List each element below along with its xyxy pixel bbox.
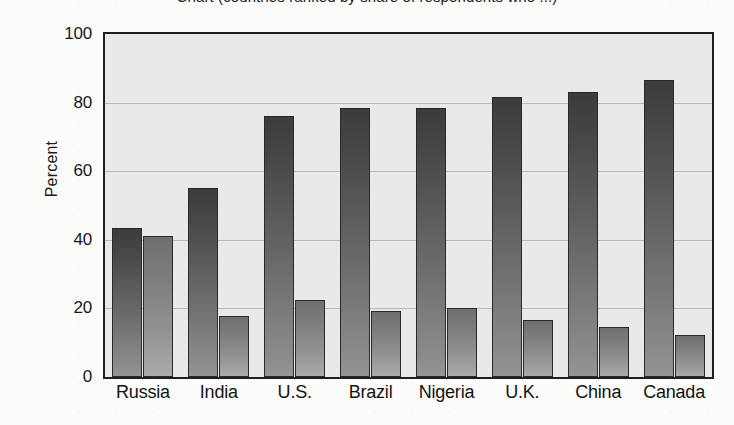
y-tick-label-80: 80 bbox=[18, 93, 92, 113]
clipped-chart-title: Chart (countries ranked by share of resp… bbox=[0, 0, 734, 9]
bar-us-series2 bbox=[295, 300, 325, 377]
bar-nigeria-series2 bbox=[447, 308, 477, 377]
bar-india-series1 bbox=[188, 188, 218, 377]
bar-canada-series2 bbox=[675, 335, 705, 377]
x-tick-label-us: U.S. bbox=[278, 382, 312, 403]
x-tick-label-brazil: Brazil bbox=[349, 382, 393, 403]
bar-uk-series2 bbox=[523, 320, 553, 377]
bar-india-series2 bbox=[219, 316, 249, 377]
y-axis-tick-labels: 020406080100 bbox=[16, 0, 92, 425]
bar-us-series1 bbox=[264, 116, 294, 377]
x-tick-label-nigeria: Nigeria bbox=[419, 382, 475, 403]
x-tick-label-canada: Canada bbox=[643, 382, 705, 403]
bar-brazil-series2 bbox=[371, 311, 401, 377]
y-tick-label-20: 20 bbox=[18, 298, 92, 318]
x-axis-tick-labels: RussiaIndiaU.S.BrazilNigeriaU.K.ChinaCan… bbox=[103, 382, 714, 414]
bar-brazil-series1 bbox=[340, 108, 370, 377]
x-tick-label-india: India bbox=[200, 382, 238, 403]
plot-area bbox=[103, 32, 714, 379]
chart-figure: Chart (countries ranked by share of resp… bbox=[0, 0, 734, 425]
plot-inner bbox=[105, 34, 712, 377]
y-tick-label-0: 0 bbox=[18, 367, 92, 387]
bar-canada-series1 bbox=[644, 80, 674, 377]
gridline-60 bbox=[105, 171, 712, 172]
bar-uk-series1 bbox=[492, 97, 522, 377]
bar-russia-series1 bbox=[112, 228, 142, 377]
bar-nigeria-series1 bbox=[416, 108, 446, 377]
y-tick-label-40: 40 bbox=[18, 230, 92, 250]
bar-russia-series2 bbox=[143, 236, 173, 377]
x-tick-label-china: China bbox=[575, 382, 621, 403]
gridline-80 bbox=[105, 103, 712, 104]
y-tick-label-100: 100 bbox=[18, 24, 92, 44]
x-tick-label-uk: U.K. bbox=[505, 382, 539, 403]
bar-china-series2 bbox=[599, 327, 629, 377]
y-tick-label-60: 60 bbox=[18, 161, 92, 181]
x-tick-label-russia: Russia bbox=[116, 382, 170, 403]
bar-china-series1 bbox=[568, 92, 598, 377]
chart-title-text: Chart (countries ranked by share of resp… bbox=[177, 0, 558, 5]
